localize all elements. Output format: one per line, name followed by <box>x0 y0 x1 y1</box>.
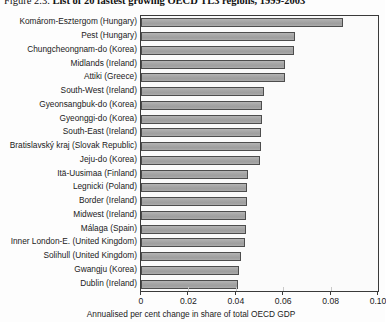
bar <box>141 197 247 206</box>
plot-area <box>140 15 379 292</box>
category-axis-labels: Komárom-Esztergom (Hungary)Pest (Hungary… <box>0 15 137 292</box>
category-label: Chungcheongnam-do (Korea) <box>0 45 137 54</box>
bar-slot <box>141 57 378 71</box>
bar-series <box>141 16 378 291</box>
bar-slot <box>141 195 378 209</box>
x-tick-label: 0.02 <box>180 296 197 306</box>
category-label: Pest (Hungary) <box>0 31 137 40</box>
category-label: Gyeonggi-do (Korea) <box>0 114 137 123</box>
bar <box>141 266 239 275</box>
bar <box>141 101 262 110</box>
bar <box>141 128 261 137</box>
bar <box>141 238 245 247</box>
category-label: Itä-Uusimaa (Finland) <box>0 169 137 178</box>
bar <box>141 211 246 220</box>
x-tick-mark <box>187 292 188 295</box>
x-tick-mark <box>330 292 331 295</box>
bar <box>141 46 294 55</box>
bar-slot <box>141 222 378 236</box>
category-label: Gwangju (Korea) <box>0 265 137 274</box>
category-label: Solihull (United Kingdom) <box>0 251 137 260</box>
x-tick-mark <box>282 292 283 295</box>
bar-slot <box>141 181 378 195</box>
category-label: South-East (Ireland) <box>0 127 137 136</box>
bar-slot <box>141 112 378 126</box>
bar-slot <box>141 277 378 291</box>
bar-slot <box>141 71 378 85</box>
x-axis-tick-labels: 00.020.040.060.080.10 <box>0 296 385 308</box>
bar-slot <box>141 264 378 278</box>
bar <box>141 87 264 96</box>
x-tick-label: 0 <box>139 296 144 306</box>
bar <box>141 225 246 234</box>
figure-number: Figure 2.3. <box>4 0 50 6</box>
bar <box>141 115 262 124</box>
inner-tick-mark <box>236 287 237 291</box>
x-tick-label: 0.10 <box>370 296 386 306</box>
x-tick-mark <box>235 292 236 295</box>
category-label: Jeju-do (Korea) <box>0 155 137 164</box>
bar-slot <box>141 85 378 99</box>
x-tick-mark <box>377 292 378 295</box>
category-label: Inner London-E. (United Kingdom) <box>0 237 137 246</box>
bar <box>141 156 260 165</box>
figure-title: Figure 2.3. List of 20 fastest growing O… <box>4 0 385 9</box>
bar <box>141 142 261 151</box>
x-tick-label: 0.04 <box>227 296 244 306</box>
bar <box>141 18 343 27</box>
bar-slot <box>141 99 378 113</box>
category-label: Komárom-Esztergom (Hungary) <box>0 17 137 26</box>
x-tick-mark <box>140 292 141 295</box>
category-label: Border (Ireland) <box>0 196 137 205</box>
bar <box>141 170 248 179</box>
bar-slot <box>141 236 378 250</box>
bar <box>141 73 285 82</box>
category-label: Dublin (Ireland) <box>0 279 137 288</box>
category-label: Málaga (Spain) <box>0 224 137 233</box>
x-axis-title: Annualised per cent change in share of t… <box>0 309 385 319</box>
bar-slot <box>141 126 378 140</box>
category-label: South-West (Ireland) <box>0 86 137 95</box>
bar-slot <box>141 209 378 223</box>
bar <box>141 280 238 289</box>
inner-tick-mark <box>331 287 332 291</box>
x-tick-label: 0.06 <box>275 296 292 306</box>
inner-tick-mark <box>188 287 189 291</box>
bar-slot <box>141 167 378 181</box>
bar-slot <box>141 44 378 58</box>
category-label: Midwest (Ireland) <box>0 210 137 219</box>
bar-slot <box>141 30 378 44</box>
category-label: Legnicki (Poland) <box>0 182 137 191</box>
bar <box>141 252 241 261</box>
bar <box>141 183 247 192</box>
bar-slot <box>141 250 378 264</box>
bar-slot <box>141 16 378 30</box>
bar <box>141 60 285 69</box>
category-label: Midlands (Ireland) <box>0 59 137 68</box>
bar-slot <box>141 154 378 168</box>
category-label: Bratislavský kraj (Slovak Republic) <box>0 141 137 150</box>
category-label: Attiki (Greece) <box>0 72 137 81</box>
x-tick-label: 0.08 <box>322 296 339 306</box>
bar-slot <box>141 140 378 154</box>
figure-title-text: List of 20 fastest growing OECD TL3 regi… <box>52 0 305 6</box>
bar <box>141 32 295 41</box>
inner-tick-mark <box>283 287 284 291</box>
category-label: Gyeonsangbuk-do (Korea) <box>0 100 137 109</box>
